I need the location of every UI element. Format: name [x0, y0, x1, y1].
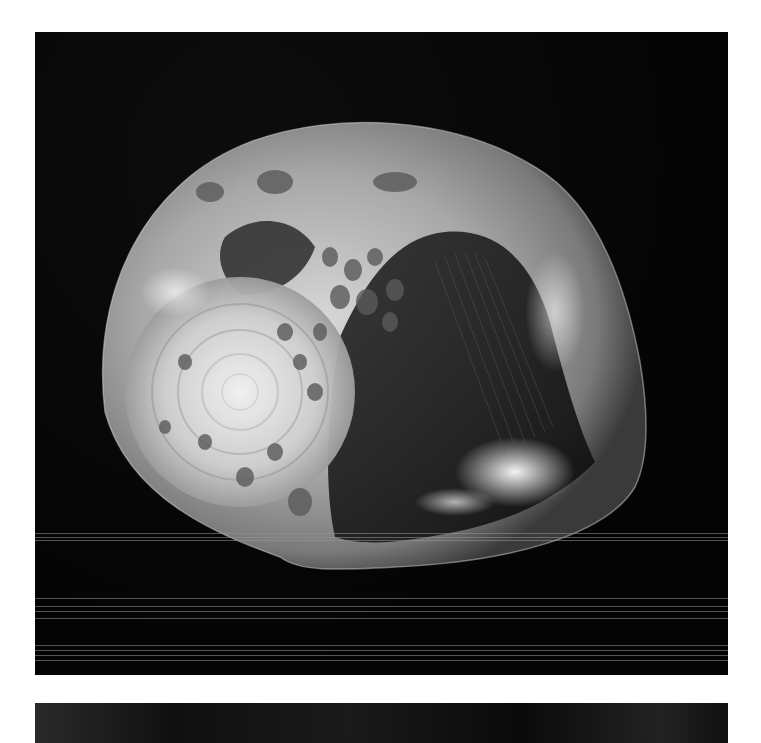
scanline-artifact: [35, 533, 728, 534]
shell-photo: [35, 32, 728, 675]
shell-illustration: [35, 32, 728, 675]
scanline-artifact: [35, 645, 728, 646]
scanline-artifact: [35, 650, 728, 651]
scanline-artifact: [35, 660, 728, 661]
scanline-artifact: [35, 598, 728, 599]
scanline-artifact: [35, 611, 728, 612]
scanline-artifact: [35, 655, 728, 656]
scanline-artifact: [35, 540, 728, 541]
scanline-artifact: [35, 537, 728, 538]
next-photo-partial: [35, 703, 728, 743]
scanline-artifact: [35, 618, 728, 619]
scanline-artifact: [35, 606, 728, 607]
